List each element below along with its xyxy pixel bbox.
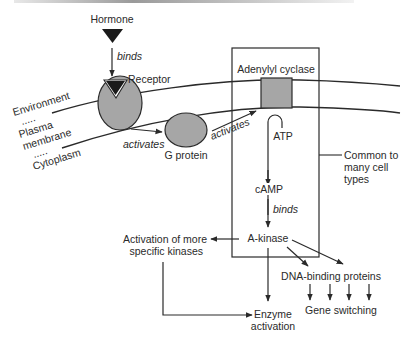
environment-label: Environment [11, 89, 71, 118]
g-protein [165, 113, 207, 147]
signaling-diagram: Hormone binds Receptor Environment .....… [0, 0, 412, 338]
gene-switching-label: Gene switching [305, 304, 377, 316]
more-kinases-label-line1: Activation of more [123, 233, 207, 245]
common-label-line1: Common to [344, 149, 398, 161]
binds-label-1: binds [117, 50, 143, 62]
activates-arrow-1 [131, 129, 162, 132]
activates-label-1: activates [123, 138, 165, 150]
receptor-label: Receptor [128, 73, 171, 85]
a-kinase-label: A-kinase [248, 232, 289, 244]
adenylyl-cyclase-protein [261, 78, 292, 108]
binds-label-2: binds [273, 203, 299, 215]
more-kinases-label-line2: specific kinases [129, 245, 203, 257]
hormone-triangle-icon [102, 29, 123, 43]
common-label-line2: many cell [344, 161, 388, 173]
hormone-label: Hormone [90, 13, 133, 25]
arrow-kinases-to-enzyme [163, 262, 252, 315]
dna-binding-label: DNA-binding proteins [281, 270, 381, 282]
adenylyl-cyclase-label: Adenylyl cyclase [237, 63, 315, 75]
camp-label: cAMP [255, 183, 283, 195]
arrow-to-dna-binding-2 [292, 240, 343, 264]
activates-label-2: activates [208, 115, 252, 142]
common-label-line3: types [344, 173, 369, 185]
g-protein-label: G protein [164, 149, 207, 161]
atp-label: ATP [273, 130, 293, 142]
enzyme-label-line2: activation [251, 320, 296, 332]
enzyme-label-line1: Enzyme [254, 308, 292, 320]
